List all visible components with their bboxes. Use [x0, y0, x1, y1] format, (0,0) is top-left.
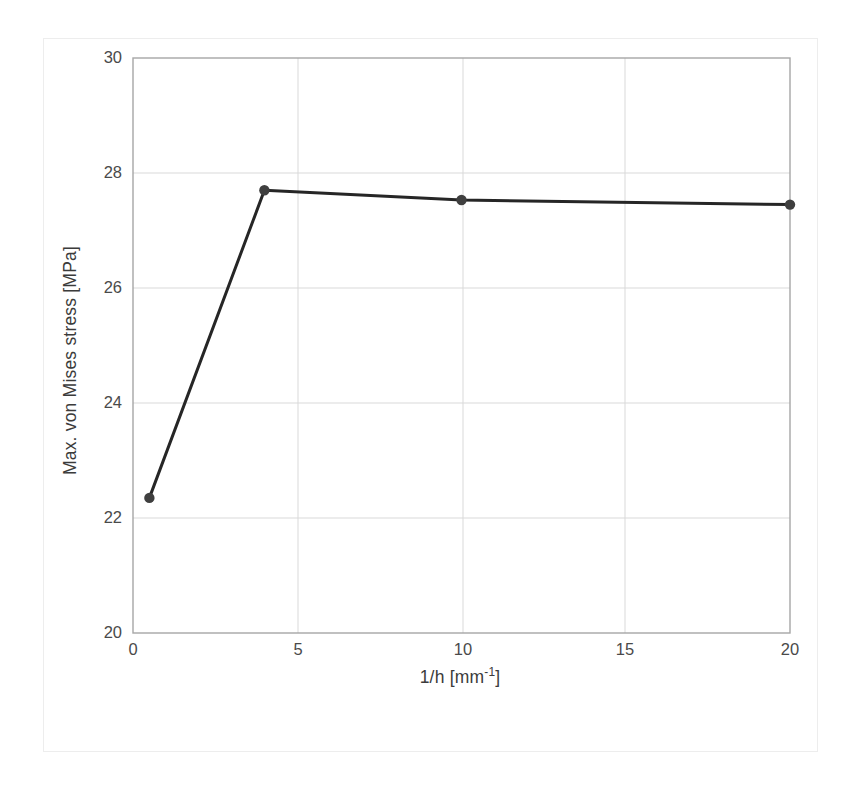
x-axis-title-base: 1/h [mm [420, 667, 485, 687]
y-tick-label-28: 28 [82, 163, 122, 182]
y-tick-label-24: 24 [82, 393, 122, 412]
data-series-markers [144, 185, 795, 503]
x-tick-label-0: 0 [113, 640, 153, 659]
x-tick-label-15: 15 [605, 640, 645, 659]
data-point-marker [785, 199, 795, 209]
x-axis-title-suffix: ] [495, 667, 500, 687]
x-tick-label-5: 5 [278, 640, 318, 659]
y-tick-label-26: 26 [82, 278, 122, 297]
y-tick-label-22: 22 [82, 508, 122, 527]
x-tick-label-10: 10 [443, 640, 483, 659]
data-point-marker [259, 185, 269, 195]
y-axis-title: Max. von Mises stress [MPa] [60, 231, 81, 491]
x-axis-title: 1/h [mm-1] [330, 665, 590, 688]
x-axis-title-exponent: -1 [484, 665, 495, 679]
data-series-line [149, 190, 790, 498]
y-tick-label-30: 30 [82, 48, 122, 67]
data-point-marker [144, 493, 154, 503]
plot-area-border [133, 58, 790, 633]
grid-lines-vertical [298, 58, 625, 633]
grid-lines-horizontal [133, 173, 790, 518]
data-point-marker [456, 195, 466, 205]
x-tick-label-20: 20 [770, 640, 810, 659]
